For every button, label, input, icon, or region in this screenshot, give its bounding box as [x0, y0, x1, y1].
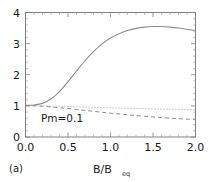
x-axis-title-main: B/B	[93, 163, 112, 176]
y-tick-label: 2	[13, 69, 20, 82]
x-tick-label: 1.0	[102, 141, 120, 154]
x-tick-label: 2.0	[187, 141, 205, 154]
panel-label: (a)	[9, 163, 23, 174]
x-axis-title-subscript: eq	[122, 170, 130, 178]
y-tick-label: 1	[13, 100, 20, 113]
annotation-pm-label: Pm=0.1	[41, 112, 83, 124]
figure-background	[0, 0, 212, 182]
x-tick-label: 1.5	[144, 141, 162, 154]
y-tick-label: 4	[13, 7, 20, 20]
figure-panel-a: 0.00.51.01.52.0 01234 B/B eq (a) Pm=0.1	[0, 0, 212, 182]
x-tick-label: 0.5	[59, 141, 77, 154]
y-tick-label: 3	[13, 38, 20, 51]
y-tick-label: 0	[13, 131, 20, 144]
